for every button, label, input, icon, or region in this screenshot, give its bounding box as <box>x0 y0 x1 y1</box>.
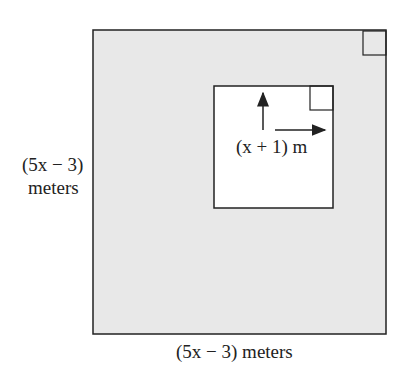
diagram: (x + 1) m (5x − 3) meters (5x − 3) meter… <box>0 0 407 382</box>
left-label-line2: meters <box>28 177 79 198</box>
bottom-label: (5x − 3) meters <box>176 341 293 363</box>
left-label-line1: (5x − 3) <box>22 154 83 176</box>
inner-label: (x + 1) m <box>236 136 308 158</box>
